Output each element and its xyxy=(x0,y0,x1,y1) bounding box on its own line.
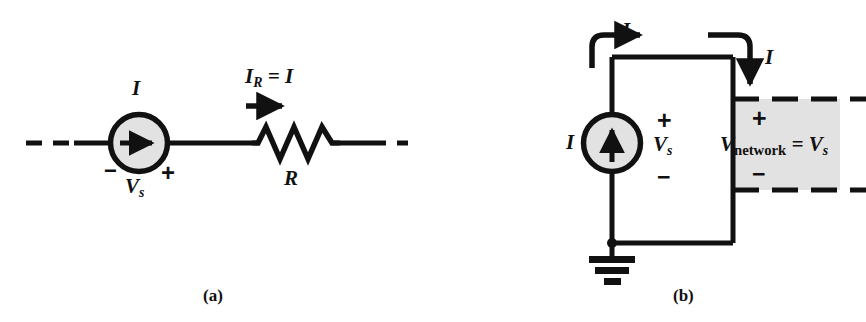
current-source-b xyxy=(584,115,641,172)
resistor-current-rest: = I xyxy=(262,64,293,88)
source-current-label-a: I xyxy=(132,78,140,99)
source-voltage-base-b: V xyxy=(653,132,667,156)
source-minus-sign-a: − xyxy=(104,160,117,182)
network-minus-sign: − xyxy=(752,163,765,186)
source-voltage-sub-b: s xyxy=(667,143,672,158)
source-voltage-label-a: Vs xyxy=(125,176,144,200)
source-plus-sign-a: + xyxy=(161,161,175,185)
source-voltage-label-b: Vs xyxy=(653,134,672,158)
top-left-current-label-b: I xyxy=(622,20,630,41)
source-current-label-b: I xyxy=(566,132,574,153)
source-voltage-sub-a: s xyxy=(139,185,144,200)
network-voltage-label: Vnetwork = Vs xyxy=(720,134,828,158)
panel-b-drawing xyxy=(584,35,866,285)
current-source-a xyxy=(111,115,168,172)
panel-a-drawing xyxy=(26,106,408,172)
resistor-label: R xyxy=(284,168,298,189)
network-voltage-base: V xyxy=(720,132,734,156)
caption-a: (a) xyxy=(203,287,223,304)
ground-symbol xyxy=(589,243,635,285)
network-voltage-rest: = V xyxy=(786,132,822,156)
network-voltage-sub: network xyxy=(734,142,786,158)
resistor-current-label: IR = I xyxy=(245,66,293,90)
resistor-a xyxy=(252,127,340,159)
network-voltage-rest-sub: s xyxy=(823,143,828,158)
current-arrow-in-b xyxy=(592,35,640,68)
top-right-current-label-b: I xyxy=(765,47,773,68)
circuit-drawing xyxy=(0,0,866,322)
circuit-figure: I − Vs + IR = I R (a) I I I + Vs − + Vne… xyxy=(0,0,866,322)
source-plus-sign-b: + xyxy=(657,108,672,133)
source-minus-sign-b: − xyxy=(657,166,670,189)
caption-b: (b) xyxy=(673,287,694,304)
network-plus-sign: + xyxy=(752,106,767,131)
source-voltage-base-a: V xyxy=(125,174,139,198)
resistor-current-base: I xyxy=(245,64,253,88)
